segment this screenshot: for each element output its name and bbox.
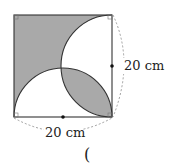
- answer-parenthesis: (: [84, 145, 90, 164]
- geometry-figure: 20 cm 20 cm (: [0, 0, 169, 166]
- right-center-dot: [110, 64, 114, 68]
- bottom-center-dot: [61, 115, 65, 119]
- right-dimension-arc: [113, 15, 124, 117]
- right-side-label: 20 cm: [124, 58, 164, 73]
- bottom-side-label: 20 cm: [45, 125, 85, 140]
